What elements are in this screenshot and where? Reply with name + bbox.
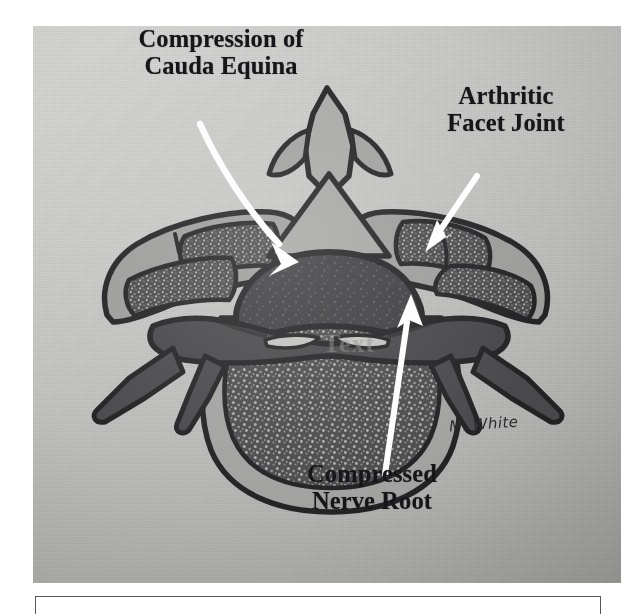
label-compressed-nerve-root: Compressed Nerve Root: [244, 460, 500, 515]
label-compression-of-cauda-equina: Compression of Cauda Equina: [96, 25, 346, 80]
label-arthritic-facet-joint: Arthritic Facet Joint: [398, 82, 614, 137]
caption-box: [35, 596, 601, 614]
